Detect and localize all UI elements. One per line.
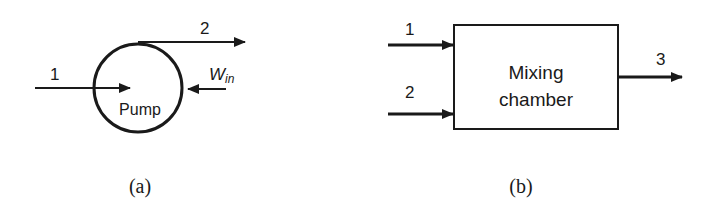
work-in-label: Win <box>209 65 235 86</box>
pump-label: Pump <box>119 101 161 118</box>
mixing-label-line1: Mixing <box>509 62 564 83</box>
caption-b: (b) <box>509 175 532 198</box>
caption-a: (a) <box>129 175 151 198</box>
inlet-label-1: 1 <box>405 20 414 39</box>
diagram-canvas: 1 2 Win Pump (a) 1 2 3 Mixing chamber (b… <box>0 0 713 218</box>
inlet-label-2: 2 <box>405 83 414 102</box>
panel-a-pump: 1 2 Win Pump (a) <box>35 19 245 198</box>
mixing-label-line2: chamber <box>499 89 574 110</box>
panel-b-mixing-chamber: 1 2 3 Mixing chamber (b) <box>388 20 682 198</box>
outlet-label-3: 3 <box>656 50 665 69</box>
inlet-label-1: 1 <box>50 65 59 84</box>
outlet-label-2: 2 <box>200 19 209 38</box>
